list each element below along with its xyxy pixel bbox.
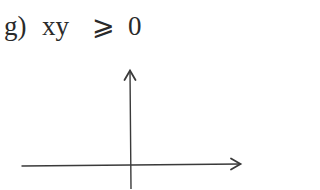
- y-axis-line: [130, 71, 131, 189]
- coordinate-axes: [0, 0, 320, 189]
- y-axis: [125, 71, 136, 190]
